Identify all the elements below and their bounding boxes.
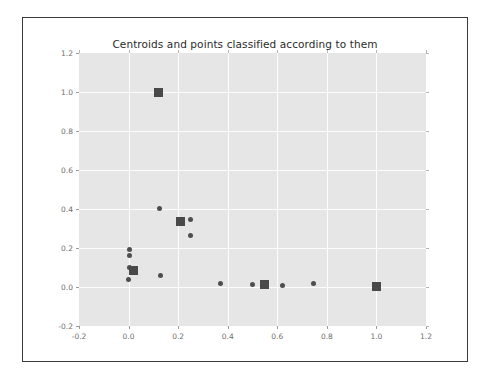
centroid-marker	[372, 282, 381, 291]
centroid-marker	[154, 88, 163, 97]
y-axis-tick-label: 0.8	[61, 127, 73, 136]
gridline-vertical	[327, 53, 328, 326]
x-axis-tick-label: 0.6	[271, 332, 283, 341]
y-axis-tick-mark-right	[426, 92, 429, 93]
x-axis-tick-mark-top	[376, 50, 377, 53]
x-axis-tick-mark-top	[228, 50, 229, 53]
y-axis-tick-label: 0.0	[61, 283, 73, 292]
data-point-marker	[188, 233, 193, 238]
x-axis-tick-label: 1.2	[420, 332, 432, 341]
y-axis-tick-mark	[76, 248, 79, 249]
y-axis-tick-mark-right	[426, 53, 429, 54]
y-axis-tick-mark	[76, 131, 79, 132]
x-axis-tick-label: -0.2	[72, 332, 87, 341]
y-axis-tick-mark	[76, 170, 79, 171]
y-axis-tick-label: 0.2	[61, 244, 73, 253]
x-axis-tick-label: 0.0	[123, 332, 135, 341]
x-axis-tick-mark-top	[327, 50, 328, 53]
y-axis-tick-mark-right	[426, 131, 429, 132]
x-axis-tick-mark-top	[178, 50, 179, 53]
data-point-marker	[157, 206, 162, 211]
y-axis-tick-mark-right	[426, 209, 429, 210]
y-axis-tick-mark	[76, 326, 79, 327]
y-axis-tick-mark-right	[426, 170, 429, 171]
x-axis-tick-mark	[79, 326, 80, 329]
y-axis-tick-mark-right	[426, 326, 429, 327]
x-axis-tick-mark	[376, 326, 377, 329]
data-point-marker	[218, 281, 223, 286]
x-axis-tick-label: 1.0	[370, 332, 382, 341]
x-axis-tick-mark-top	[129, 50, 130, 53]
y-axis-tick-label: -0.2	[58, 322, 73, 331]
gridline-vertical	[228, 53, 229, 326]
x-axis-tick-mark	[277, 326, 278, 329]
centroid-marker	[176, 217, 185, 226]
y-axis-tick-mark-right	[426, 248, 429, 249]
gridline-vertical	[277, 53, 278, 326]
x-axis-tick-mark	[178, 326, 179, 329]
centroid-marker	[129, 266, 138, 275]
plot-axes: -0.20.00.20.40.60.81.01.2-0.20.00.20.40.…	[79, 53, 426, 326]
y-axis-tick-label: 1.2	[61, 49, 73, 58]
x-axis-tick-label: 0.8	[321, 332, 333, 341]
x-axis-tick-mark	[228, 326, 229, 329]
gridline-horizontal	[79, 92, 426, 93]
x-axis-tick-mark-top	[277, 50, 278, 53]
gridline-horizontal	[79, 170, 426, 171]
y-axis-tick-label: 1.0	[61, 88, 73, 97]
data-point-marker	[127, 247, 132, 252]
x-axis-tick-mark	[327, 326, 328, 329]
data-point-marker	[188, 217, 193, 222]
data-point-marker	[311, 281, 316, 286]
centroid-marker	[260, 280, 269, 289]
figure-frame: Centroids and points classified accordin…	[22, 17, 468, 362]
x-axis-tick-mark	[129, 326, 130, 329]
y-axis-tick-mark	[76, 209, 79, 210]
x-axis-tick-label: 0.4	[222, 332, 234, 341]
gridline-horizontal	[79, 131, 426, 132]
gridline-vertical	[129, 53, 130, 326]
y-axis-tick-label: 0.6	[61, 166, 73, 175]
page-title: Centroids and points classified accordin…	[23, 38, 467, 50]
figure-canvas: Centroids and points classified accordin…	[23, 18, 467, 361]
x-axis-tick-mark-top	[79, 50, 80, 53]
x-axis-tick-label: 0.2	[172, 332, 184, 341]
y-axis-tick-mark	[76, 287, 79, 288]
screenshot-root: Centroids and points classified accordin…	[0, 0, 492, 381]
gridline-vertical	[178, 53, 179, 326]
y-axis-tick-mark-right	[426, 287, 429, 288]
data-point-marker	[126, 277, 131, 282]
y-axis-tick-mark	[76, 92, 79, 93]
data-point-marker	[158, 273, 163, 278]
y-axis-tick-label: 0.4	[61, 205, 73, 214]
gridline-horizontal	[79, 209, 426, 210]
y-axis-tick-mark	[76, 53, 79, 54]
data-point-marker	[127, 253, 132, 258]
data-point-marker	[280, 283, 285, 288]
